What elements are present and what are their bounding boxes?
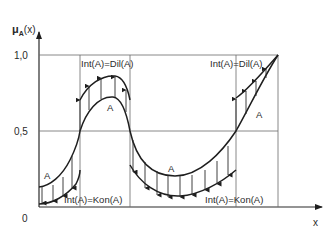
- curve-label-a-right: A: [256, 109, 263, 120]
- label-dil-right: Int(A)=Dil(A): [210, 58, 263, 69]
- curve-label-a-left: A: [44, 170, 51, 181]
- tick-1-0: 1,0: [14, 50, 28, 61]
- curve-label-a-mid: A: [107, 102, 114, 113]
- x-axis-label: x: [313, 217, 318, 228]
- curve-dil-mid: [80, 76, 130, 100]
- intensification-diagram: 1,0 0,5 0 μA(x) x: [0, 0, 334, 233]
- curve-kon-mid: [130, 165, 236, 196]
- y-axis-label: μA(x): [12, 23, 35, 37]
- curve-a: [39, 55, 278, 187]
- arrows-dil-mid: [80, 77, 126, 131]
- y-axis-label-mu: μ: [12, 23, 19, 35]
- curve-label-a-dip: A: [168, 163, 175, 174]
- tick-0: 0: [22, 213, 28, 224]
- tick-0-5: 0,5: [14, 126, 28, 137]
- arrows-kon-mid: [133, 140, 228, 197]
- y-axis-label-arg: (x): [24, 24, 36, 35]
- label-kon-mid: Int(A)=Kon(A): [205, 194, 263, 205]
- label-kon-left: Int(A)=Kon(A): [64, 194, 122, 205]
- label-dil-mid: Int(A)=Dil(A): [81, 58, 134, 69]
